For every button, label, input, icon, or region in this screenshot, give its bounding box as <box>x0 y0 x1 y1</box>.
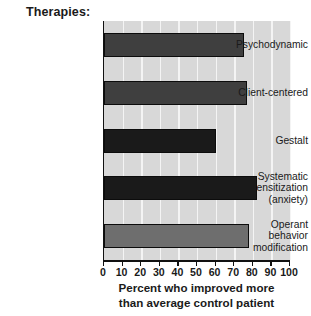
category-label: Systematicdesensitization(anxiety) <box>210 171 311 206</box>
category-label-line: behavior <box>210 230 308 242</box>
category-label: Gestalt <box>210 135 311 147</box>
x-axis-tick-label: 60 <box>209 266 221 278</box>
x-axis-title-line: than average control patient <box>103 296 290 311</box>
category-label-line: Gestalt <box>210 135 308 147</box>
x-axis-tick-label: 90 <box>264 266 276 278</box>
category-label-line: desensitization <box>210 182 308 194</box>
x-axis-tick-label: 0 <box>100 266 106 278</box>
x-axis-tick-label: 80 <box>246 266 258 278</box>
category-label-line: Psychodynamic <box>210 39 308 51</box>
x-axis-tick-label: 70 <box>227 266 239 278</box>
x-axis-title-line: Percent who improved more <box>103 281 290 296</box>
x-axis-title: Percent who improved morethan average co… <box>103 281 290 310</box>
category-label: Operantbehaviormodification <box>210 219 311 254</box>
category-label: Client-centered <box>210 87 311 99</box>
category-label: Psychodynamic <box>210 39 311 51</box>
category-label-line: Client-centered <box>210 87 308 99</box>
x-axis-tick-label: 20 <box>134 266 146 278</box>
chart-title: Therapies: <box>26 5 90 19</box>
category-label-line: (anxiety) <box>210 194 308 206</box>
x-axis-tick-label: 30 <box>153 266 165 278</box>
category-label-line: Systematic <box>210 171 308 183</box>
x-axis-tick-label: 40 <box>171 266 183 278</box>
category-label-line: modification <box>210 242 308 254</box>
x-axis-tick-label: 10 <box>116 266 128 278</box>
category-label-line: Operant <box>210 219 308 231</box>
x-axis-tick-label: 50 <box>190 266 202 278</box>
x-axis-tick-label: 100 <box>280 266 298 278</box>
bar <box>104 129 216 153</box>
bar-chart-figure: Therapies: PsychodynamicClient-centeredG… <box>0 0 311 316</box>
